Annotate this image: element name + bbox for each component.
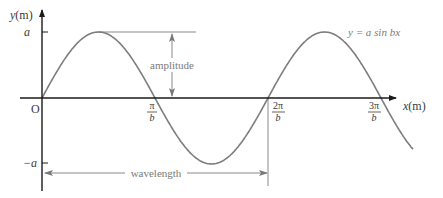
wavelength-label: wavelength (131, 167, 182, 179)
diagram-canvas: y(m) x(m) a −a O π b 2π b 3π b amplitude… (0, 0, 443, 198)
y-tick-label-a: a (24, 25, 30, 39)
svg-text:b: b (372, 112, 377, 123)
y-tick-label-neg-a: −a (23, 156, 37, 170)
x-tick-2pi-over-b: 2π b (272, 100, 285, 123)
svg-text:b: b (276, 112, 281, 123)
svg-text:b: b (150, 112, 155, 123)
x-tick-pi-over-b: π b (147, 100, 157, 123)
y-axis-label: y(m) (9, 8, 33, 22)
origin-label: O (31, 102, 40, 116)
x-tick-3pi-over-b: 3π b (368, 100, 381, 123)
amplitude-label: amplitude (150, 59, 194, 71)
equation-label: y = a sin bx (347, 26, 400, 38)
svg-text:π: π (149, 100, 154, 111)
svg-text:3π: 3π (369, 100, 379, 111)
svg-text:2π: 2π (273, 100, 283, 111)
x-axis-label: x(m) (402, 99, 426, 113)
sine-wave-diagram: y(m) x(m) a −a O π b 2π b 3π b amplitude… (0, 0, 443, 198)
